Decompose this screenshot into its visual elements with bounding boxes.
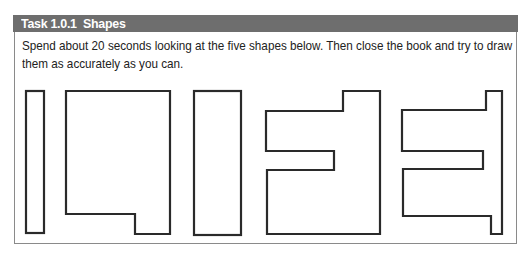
shape-4 bbox=[266, 91, 380, 234]
shape-2 bbox=[66, 91, 170, 234]
shape-3 bbox=[194, 91, 241, 235]
shapes-figure bbox=[0, 0, 532, 256]
shape-5 bbox=[402, 91, 502, 234]
shape-1 bbox=[26, 91, 44, 233]
